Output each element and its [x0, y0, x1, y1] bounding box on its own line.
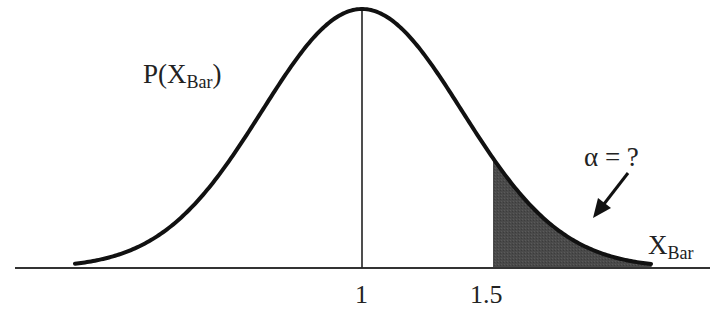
alpha-annotation: α = ? [584, 142, 639, 172]
x-axis-label: XBar [648, 230, 694, 263]
density-curve [75, 9, 651, 264]
tick-label-critical: 1.5 [470, 280, 503, 309]
tick-label-mean: 1 [355, 280, 368, 309]
y-axis-label: P(XBar) [143, 59, 222, 92]
arrow-icon [593, 173, 628, 218]
normal-distribution-figure: P(XBar) XBar α = ? 1 1.5 [0, 0, 716, 314]
